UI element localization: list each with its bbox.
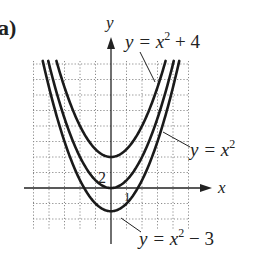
y-tick-label: 2	[98, 169, 106, 186]
graph-figure: a) y x 2 1 y = x2 + 4 y = x2 y = x2 − 3	[0, 0, 261, 267]
panel-label: a)	[0, 15, 16, 40]
x-axis-label: x	[217, 178, 226, 197]
x-axis-arrow-icon	[200, 184, 212, 192]
label-curve-mid: y = x2	[188, 137, 235, 160]
label-curve-top: y = x2 + 4	[123, 29, 200, 52]
leader-line-bottom	[121, 218, 141, 232]
y-axis-arrow-icon	[107, 37, 115, 49]
y-axis-label: y	[104, 13, 114, 32]
label-curve-bottom: y = x2 − 3	[137, 226, 214, 249]
leader-line-mid	[163, 132, 190, 147]
y-axis	[107, 37, 115, 244]
x-tick-label: 1	[124, 189, 131, 204]
